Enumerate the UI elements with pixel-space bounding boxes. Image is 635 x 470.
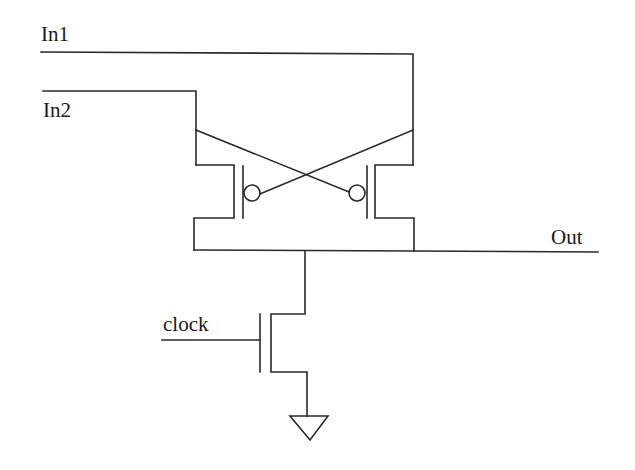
pmos-right-bubble-icon	[349, 185, 365, 201]
label-out: Out	[551, 225, 583, 249]
pmos-left-bubble-icon	[244, 185, 260, 201]
wire-out	[194, 250, 598, 252]
pmos-right	[349, 165, 414, 251]
pmos-left-channel	[194, 165, 234, 250]
nmos-clock-channel	[271, 251, 307, 416]
label-clock: clock	[163, 312, 209, 336]
ground-icon	[290, 416, 328, 440]
circuit-diagram: In1 In2 Out clock	[0, 0, 635, 470]
pmos-right-channel	[375, 165, 414, 251]
wire-in1	[41, 52, 413, 165]
wire-cross-left-to-right-gate	[196, 130, 349, 192]
label-in1: In1	[41, 22, 69, 46]
label-in2: In2	[43, 98, 71, 122]
pmos-left	[194, 165, 260, 250]
wire-cross-right-to-left-gate	[260, 130, 413, 194]
